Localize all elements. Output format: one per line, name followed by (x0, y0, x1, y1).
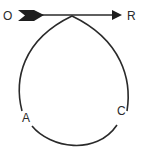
label-end-r: R (127, 9, 136, 23)
label-point-a: A (22, 111, 30, 125)
loop-diagram: O R A C (0, 0, 142, 158)
arrow-head-icon (112, 10, 122, 20)
arrow-tail-icon (18, 10, 44, 21)
label-point-c: C (117, 104, 126, 118)
label-start-o: O (3, 9, 12, 23)
loop-upper-arc (19, 16, 128, 111)
loop-lower-arc (32, 125, 117, 145)
